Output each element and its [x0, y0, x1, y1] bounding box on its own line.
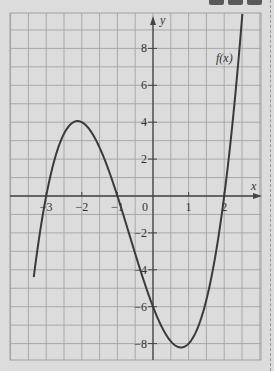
svg-text:8: 8: [141, 41, 147, 55]
svg-text:1: 1: [186, 200, 192, 214]
x-axis-label: x: [250, 179, 257, 193]
svg-text:−2: −2: [75, 200, 88, 214]
y-axis-label: y: [159, 13, 166, 27]
curve-label: f(x): [216, 51, 233, 65]
svg-text:4: 4: [141, 115, 147, 129]
svg-text:−3: −3: [40, 200, 53, 214]
svg-text:−6: −6: [134, 300, 147, 314]
function-graph: −3−2−1012−8−6−4−22468 f(x) y x: [0, 0, 274, 371]
svg-text:−2: −2: [134, 226, 147, 240]
curve-fx: [34, 14, 243, 347]
svg-text:−8: −8: [134, 337, 147, 351]
svg-text:2: 2: [141, 152, 147, 166]
svg-text:6: 6: [141, 78, 147, 92]
svg-text:0: 0: [142, 200, 148, 214]
